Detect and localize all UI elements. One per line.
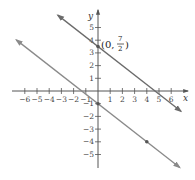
marked-point [96, 102, 100, 106]
x-tick-label: −6 [19, 95, 30, 104]
x-axis-label: x [183, 93, 188, 103]
annotation-prefix: (0, [101, 39, 114, 50]
annotation-suffix: ) [125, 39, 129, 50]
x-tick-label: −5 [31, 95, 42, 104]
point-annotation: (0, 7 2 ) [101, 35, 129, 53]
y-tick-label: 2 [89, 61, 94, 70]
chart-svg: −6−5−4−3−2−1123456−5−4−3−2−112345 x y (0… [0, 0, 195, 180]
y-tick-label: 3 [89, 48, 94, 57]
y-tick-label: 1 [89, 74, 94, 83]
annotation-denominator: 2 [118, 45, 122, 53]
x-tick-label: 2 [120, 95, 125, 104]
x-tick-label: −2 [68, 95, 79, 104]
x-tick-label: 1 [108, 95, 113, 104]
x-tick-label: −4 [44, 95, 55, 104]
y-axis-label: y [87, 11, 94, 21]
annotation-numerator: 7 [118, 35, 122, 43]
marked-point [145, 140, 149, 144]
y-tick-label: −1 [83, 99, 94, 108]
y-tick-label: −5 [83, 150, 94, 159]
x-tick-label: 4 [144, 95, 149, 104]
y-tick-label: −4 [83, 137, 94, 146]
axes [12, 10, 188, 168]
coordinate-plane-chart: −6−5−4−3−2−1123456−5−4−3−2−112345 x y (0… [0, 0, 195, 180]
marked-point [96, 45, 100, 49]
x-tick-label: −3 [56, 95, 67, 104]
x-tick-label: 3 [132, 95, 137, 104]
y-tick-label: −3 [83, 125, 94, 134]
y-tick-label: 5 [89, 23, 94, 32]
y-tick-label: −2 [83, 112, 94, 121]
